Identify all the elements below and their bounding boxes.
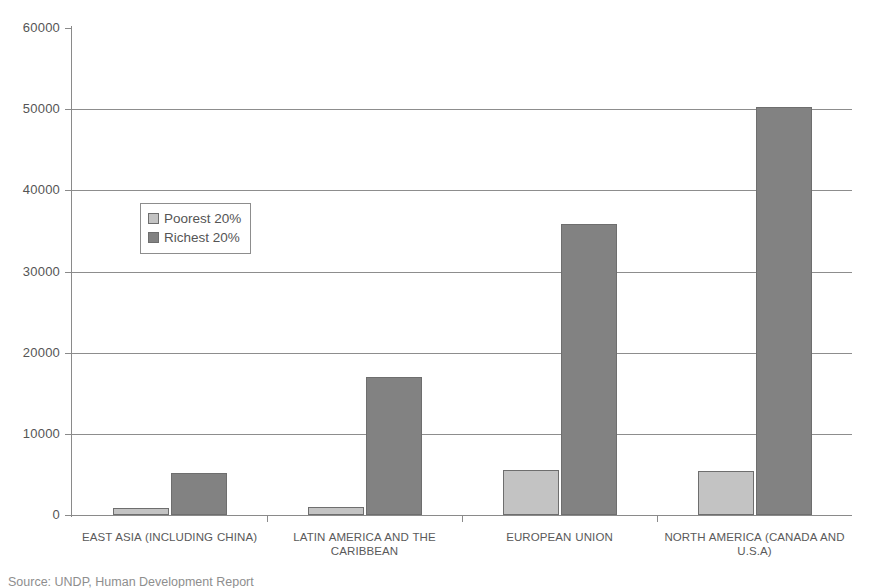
- legend-swatch-poorest-icon: [148, 213, 159, 224]
- bar-poorest: [503, 470, 559, 515]
- y-tick-label: 60000: [23, 21, 60, 34]
- legend-label-richest: Richest 20%: [164, 231, 240, 245]
- y-tick-label: 50000: [23, 102, 60, 115]
- x-tick-mark: [657, 515, 658, 522]
- bar-poorest: [113, 508, 169, 515]
- bar-richest: [561, 224, 617, 515]
- chart-legend: Poorest 20% Richest 20%: [140, 203, 251, 254]
- bar-richest: [171, 473, 227, 515]
- y-tick-mark: [65, 515, 72, 516]
- gridline: [72, 190, 852, 191]
- bar-poorest: [698, 471, 754, 515]
- y-tick-label: 40000: [23, 183, 60, 196]
- bar-richest: [756, 107, 812, 515]
- x-category-label: LATIN AMERICA AND THE CARIBBEAN: [273, 530, 456, 558]
- y-tick-mark: [65, 190, 72, 191]
- gridline: [72, 109, 852, 110]
- x-tick-mark: [462, 515, 463, 522]
- y-tick-label: 30000: [23, 265, 60, 278]
- source-caption: Source: UNDP, Human Development Report: [8, 575, 528, 588]
- gridline: [72, 434, 852, 435]
- y-tick-label: 0: [53, 508, 60, 521]
- y-tick-mark: [65, 109, 72, 110]
- legend-swatch-richest-icon: [148, 232, 159, 243]
- bar-chart-figure: 0100002000030000400005000060000 Poorest …: [0, 0, 869, 588]
- y-tick-mark: [65, 353, 72, 354]
- y-tick-mark: [65, 434, 72, 435]
- x-category-label: EAST ASIA (INCLUDING CHINA): [78, 530, 261, 544]
- y-tick-label: 10000: [23, 427, 60, 440]
- x-category-label: EUROPEAN UNION: [468, 530, 651, 544]
- y-tick-label: 20000: [23, 346, 60, 359]
- bar-poorest: [308, 507, 364, 515]
- y-tick-mark: [65, 28, 72, 29]
- gridline: [72, 353, 852, 354]
- bar-richest: [366, 377, 422, 515]
- y-tick-mark: [65, 272, 72, 273]
- plot-area: [72, 28, 852, 515]
- legend-item-poorest: Poorest 20%: [148, 209, 241, 228]
- x-tick-mark: [267, 515, 268, 522]
- legend-label-poorest: Poorest 20%: [164, 212, 241, 226]
- gridline: [72, 272, 852, 273]
- legend-item-richest: Richest 20%: [148, 228, 241, 247]
- x-category-label: NORTH AMERICA (CANADA AND U.S.A): [663, 530, 846, 558]
